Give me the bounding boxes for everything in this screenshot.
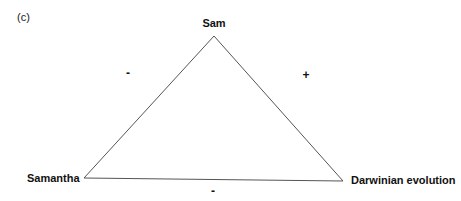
sign-sam-samantha: -: [126, 66, 130, 80]
node-samantha: Samantha: [27, 172, 80, 184]
edge-samantha-darwinian-evolution: [84, 178, 343, 181]
edge-sam-darwinian-evolution: [214, 36, 343, 181]
node-sam: Sam: [202, 17, 225, 29]
sign-samantha-darwinian-evolution: -: [211, 184, 215, 198]
node-darwinian-evolution: Darwinian evolution: [351, 174, 456, 186]
edge-sam-samantha: [84, 36, 214, 178]
triangle-edges: [0, 0, 461, 201]
sign-sam-darwinian-evolution: +: [302, 68, 309, 82]
